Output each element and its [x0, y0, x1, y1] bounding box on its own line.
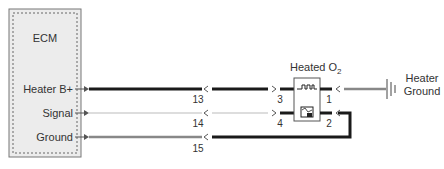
connector-icon — [272, 86, 276, 92]
wire-signal: 14 — [89, 110, 294, 129]
ground-symbol-icon — [387, 79, 395, 99]
sensor-pin-4: 4 — [277, 118, 283, 129]
arrow-icon — [84, 110, 89, 116]
circuit-14-label: 14 — [192, 118, 204, 129]
circuit-13-label: 13 — [192, 94, 204, 105]
connector-icon — [272, 110, 276, 116]
heater-ground: Heater Ground — [344, 72, 440, 99]
arrow-icon — [84, 134, 89, 140]
ecm-module: ECM Heater B+ Signal Ground — [9, 9, 81, 157]
wire-heater-b-plus: 13 — [89, 86, 294, 105]
sensor-pin-3: 3 — [277, 94, 283, 105]
sensor-pin-2: 2 — [326, 118, 332, 129]
connector-icon — [204, 86, 208, 92]
heated-o2-sensor: Heated O2 3 4 1 2 — [277, 61, 342, 129]
connector-icon — [204, 134, 208, 140]
heater-ground-label-1: Heater — [405, 72, 438, 84]
sensor-element-icon — [301, 107, 313, 117]
sensor-title: Heated O2 — [290, 61, 342, 76]
ecm-pin-ground: Ground — [36, 131, 73, 143]
sensor-pin-1: 1 — [326, 94, 332, 105]
ecm-title: ECM — [33, 32, 57, 44]
ecm-pin-signal: Signal — [42, 107, 73, 119]
circuit-15-label: 15 — [192, 143, 204, 154]
ecm-pin-heater-b-plus: Heater B+ — [23, 83, 73, 95]
arrow-icon — [84, 86, 89, 92]
connector-icon — [204, 110, 208, 116]
wiring-diagram: ECM Heater B+ Signal Ground 13 14 15 — [0, 0, 444, 169]
heater-ground-label-2: Ground — [404, 85, 441, 97]
connector-icon — [336, 86, 340, 92]
